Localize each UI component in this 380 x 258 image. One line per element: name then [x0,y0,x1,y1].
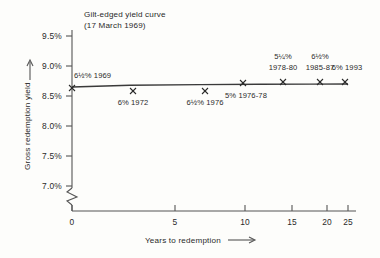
y-tick-label-1: 9.0% [42,61,62,71]
y-tick-label-4: 7.5% [42,151,62,161]
data-point-label-4-stock: 5¼% [274,52,292,61]
x-tick-label-4: 20 [322,217,332,227]
y-axis-title-group: Gross redemption yield [23,60,33,170]
data-point-label-1: 6% 1972 [118,98,149,107]
x-tick-label-5: 25 [343,217,353,227]
chart-figure: Gilt-edged yield curve (17 March 1969) 9… [0,0,380,258]
y-tick-label-2: 8.5% [42,91,62,101]
data-point-label-2: 6½% 1976 [186,98,223,107]
data-point-marker-2 [202,88,208,94]
data-point-label-0: 6½% 1969 [74,71,111,80]
y-axis-title: Gross redemption yield [23,82,32,170]
data-point-label-5-maturity: 1985-87 [306,63,335,72]
data-point-label-5-stock: 6½% [311,52,329,61]
yield-curve-svg: Gilt-edged yield curve (17 March 1969) 9… [0,0,380,258]
y-tick-label-0: 9.5% [42,31,62,41]
x-tick-label-0: 0 [70,217,75,227]
x-tick-label-3: 15 [287,217,297,227]
x-axis-title-group: Years to redemption [145,236,255,245]
data-point-marker-1 [130,88,136,94]
x-axis: 0 5 10 15 20 25 [70,205,356,227]
data-point-marker-3 [240,80,246,86]
x-tick-label-1: 5 [173,217,178,227]
data-point-label-3: 5% 1976-78 [225,91,267,100]
y-tick-label-5: 7.0% [42,181,62,191]
yield-curve-line [72,84,348,87]
chart-subtitle: (17 March 1969) [84,21,146,30]
y-tick-label-3: 8.0% [42,121,62,131]
y-axis-break-icon [67,188,77,205]
x-axis-title: Years to redemption [145,236,221,245]
y-axis: 9.5% 9.0% 8.5% 8.0% 7.5% 7.0% [42,30,77,211]
x-tick-label-2: 10 [240,217,250,227]
data-point-label-6: 6% 1993 [332,63,363,72]
data-point-label-4-maturity: 1978-80 [269,63,298,72]
data-point-markers [69,79,348,94]
chart-title: Gilt-edged yield curve [84,10,166,19]
